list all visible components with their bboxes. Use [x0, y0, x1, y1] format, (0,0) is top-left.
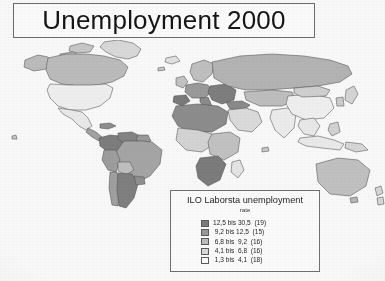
legend-title: ILO Laborsta unemployment: [171, 195, 319, 206]
region-philippines: [328, 122, 340, 136]
region-peru: [102, 150, 120, 172]
region-mexico: [58, 108, 92, 130]
map-legend: ILO Laborsta unemployment rate 12,5 bis …: [170, 190, 320, 272]
legend-swatch: [201, 248, 209, 255]
legend-swatch: [201, 257, 209, 264]
legend-row: 12,5 bis 30,5 (19): [201, 218, 319, 227]
region-small-island-1: [158, 67, 165, 71]
region-japan: [345, 86, 358, 104]
region-middle-east: [228, 108, 262, 132]
legend-subtitle: rate: [171, 207, 319, 214]
region-uruguay: [134, 176, 145, 185]
legend-row: 1,3 bis 4,1 (18): [201, 256, 319, 265]
region-central-africa: [208, 132, 240, 160]
region-korea: [336, 97, 344, 106]
region-united-states: [47, 84, 113, 110]
legend-label: 9,2 bis 12,5 (15): [213, 229, 264, 236]
legend-label: 1,3 bis 4,1 (18): [213, 257, 262, 264]
map-figure: Unemployment 2000 ILO Laborsta unemploym…: [0, 0, 385, 281]
legend-row: 9,2 bis 12,5 (15): [201, 228, 319, 237]
region-australia: [316, 158, 370, 196]
region-indonesia: [298, 136, 344, 150]
legend-row: 4,1 bis 6,8 (16): [201, 247, 319, 256]
region-western-europe: [185, 83, 212, 98]
region-iceland: [165, 56, 180, 64]
region-mongolia: [294, 86, 330, 97]
region-caribbean: [100, 123, 116, 129]
region-greenland: [100, 40, 141, 59]
region-scandinavia: [190, 60, 214, 82]
legend-swatch: [201, 229, 209, 236]
region-southeast-asia: [298, 118, 320, 136]
map-title-box: Unemployment 2000: [13, 3, 315, 38]
legend-label: 12,5 bis 30,5 (19): [213, 220, 266, 227]
region-madagascar: [231, 160, 244, 178]
region-russia: [212, 54, 352, 90]
legend-label: 6,8 bis 9,2 (16): [213, 239, 262, 246]
region-small-island-2: [262, 147, 269, 152]
region-small-island-3: [12, 135, 17, 139]
region-spain: [173, 95, 190, 106]
region-south-africa: [196, 156, 226, 186]
region-new-zealand-2: [377, 197, 384, 205]
region-tasmania: [350, 197, 358, 203]
region-north-africa: [172, 104, 228, 132]
legend-row: 6,8 bis 9,2 (16): [201, 237, 319, 246]
region-canada: [46, 54, 128, 86]
region-arctic-islands: [69, 43, 94, 53]
legend-swatch: [201, 238, 209, 245]
page-title: Unemployment 2000: [42, 7, 285, 35]
region-new-zealand: [375, 186, 383, 196]
legend-swatch: [201, 220, 209, 227]
legend-entries: 12,5 bis 30,5 (19) 9,2 bis 12,5 (15) 6,8…: [171, 218, 319, 265]
region-new-guinea: [345, 142, 368, 152]
legend-label: 4,1 bis 6,8 (16): [213, 248, 262, 255]
